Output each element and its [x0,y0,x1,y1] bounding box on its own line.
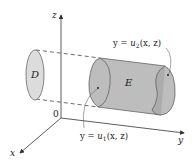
origin-label: 0 [53,109,59,119]
x-axis [20,118,61,153]
upper-surface-label: y = u2(x, z) [112,38,161,49]
x-axis-label: x [10,148,15,158]
lower-surface-label: y = u1(x, z) [79,131,128,142]
z-axis-label: z [51,10,57,20]
solid-region-diagram: z y x 0 D E y = u2(x, z) y = u1(x, z) [0,0,192,165]
solid-e-label: E [124,77,133,88]
region-d-label: D [30,69,39,80]
y-axis-label: y [177,135,184,145]
